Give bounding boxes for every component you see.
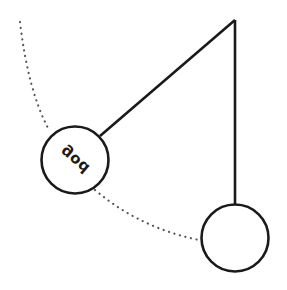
swing-arc-lower xyxy=(95,190,199,240)
rest-bob-circle xyxy=(202,205,269,272)
pendulum-string-swung xyxy=(100,20,235,136)
swing-arc-upper xyxy=(20,22,48,128)
pendulum-diagram xyxy=(0,0,287,290)
